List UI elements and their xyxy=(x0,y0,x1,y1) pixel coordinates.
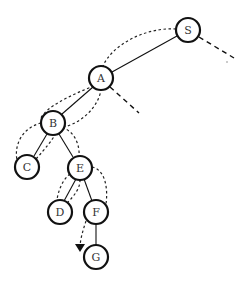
node-B: B xyxy=(41,111,65,135)
node-label: F xyxy=(92,206,100,219)
stub-S xyxy=(199,37,234,58)
trav-E-to-D-descend xyxy=(57,174,70,200)
node-S: S xyxy=(176,18,200,42)
edge-B-E xyxy=(59,134,73,157)
node-label: E xyxy=(76,162,84,175)
edge-A-B xyxy=(62,87,93,114)
trav-S-to-A xyxy=(103,29,176,66)
tree-diagram: S A B C E D F G xyxy=(0,0,243,281)
node-D: D xyxy=(48,200,72,224)
stray-dot xyxy=(226,61,228,63)
edge-S-A xyxy=(112,36,177,72)
trav-B-to-E-descend xyxy=(62,128,79,156)
stub-A xyxy=(110,87,139,113)
edge-B-C xyxy=(34,134,47,156)
node-label: D xyxy=(56,206,65,219)
node-F: F xyxy=(84,200,108,224)
edge-E-F xyxy=(84,179,92,201)
node-label: S xyxy=(184,24,192,37)
node-label: B xyxy=(49,117,57,130)
node-label: C xyxy=(23,161,31,174)
node-E: E xyxy=(68,156,92,180)
trav-F-to-G-arrow xyxy=(80,221,86,248)
node-A: A xyxy=(89,66,113,90)
node-C: C xyxy=(15,155,39,179)
unexplored-stubs xyxy=(110,37,234,113)
node-G: G xyxy=(84,245,108,269)
edge-E-D xyxy=(64,179,76,201)
node-label: A xyxy=(96,72,106,85)
trav-E-to-F-descend xyxy=(92,167,107,204)
node-label: G xyxy=(92,251,101,264)
